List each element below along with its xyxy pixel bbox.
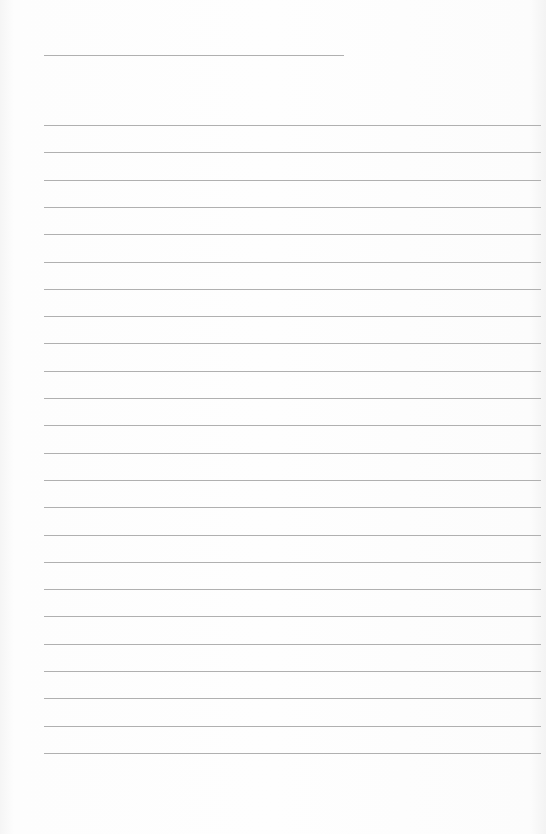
ruled-line <box>44 262 541 263</box>
lined-paper-page <box>0 0 546 834</box>
ruled-line <box>44 453 541 454</box>
ruled-lines <box>0 0 546 834</box>
ruled-line <box>44 425 541 426</box>
ruled-line <box>44 535 541 536</box>
ruled-line <box>44 152 541 153</box>
ruled-line <box>44 698 541 699</box>
ruled-line <box>44 371 541 372</box>
ruled-line <box>44 671 541 672</box>
ruled-line <box>44 289 541 290</box>
ruled-line <box>44 616 541 617</box>
ruled-line <box>44 644 541 645</box>
ruled-line <box>44 480 541 481</box>
ruled-line <box>44 507 541 508</box>
ruled-line <box>44 316 541 317</box>
ruled-line <box>44 207 541 208</box>
ruled-line <box>44 589 541 590</box>
ruled-line <box>44 398 541 399</box>
ruled-line <box>44 726 541 727</box>
ruled-line <box>44 343 541 344</box>
ruled-line <box>44 180 541 181</box>
ruled-line <box>44 562 541 563</box>
ruled-line <box>44 753 541 754</box>
ruled-line <box>44 234 541 235</box>
ruled-line <box>44 125 541 126</box>
